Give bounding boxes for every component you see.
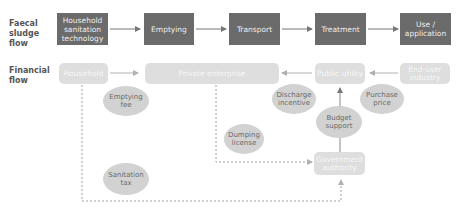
emptying-fee-ellipse: Emptying fee bbox=[103, 86, 149, 116]
discharge-incentive-ellipse: Discharge incentive bbox=[272, 84, 316, 114]
government-authority-node: Government authority bbox=[314, 152, 365, 175]
transport-box: Transport bbox=[229, 13, 280, 45]
purchase-price-ellipse: Purchase price bbox=[360, 84, 404, 114]
use-application-box: Use / application bbox=[400, 13, 451, 45]
sanitation-tax-ellipse: Sanitation tax bbox=[103, 163, 149, 195]
emptying-box: Emptying bbox=[144, 13, 194, 45]
household-node: Household bbox=[59, 63, 108, 84]
faecal-sludge-flow-label: Faecal sludge flow bbox=[9, 19, 39, 49]
dumping-license-ellipse: Dumping license bbox=[224, 124, 264, 154]
private-enterprise-node: Private enterprise bbox=[145, 63, 279, 84]
budget-support-ellipse: Budget support bbox=[316, 106, 362, 138]
end-user-industry-node: End-user industry bbox=[400, 63, 450, 84]
public-utility-node: Public utility bbox=[315, 63, 365, 84]
financial-flow-label: Financial flow bbox=[9, 66, 50, 86]
treatment-box: Treatment bbox=[315, 13, 366, 45]
household-sanitation-technology-box: Household sanitation technology bbox=[57, 13, 108, 45]
